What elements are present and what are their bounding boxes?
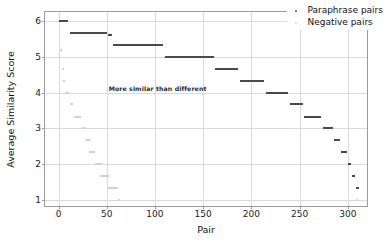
data-segment — [65, 92, 69, 94]
y-axis-title-text: Average Similarity Score — [5, 51, 16, 168]
data-segment — [95, 163, 102, 165]
x-tick-label: 0 — [56, 210, 62, 219]
data-segment — [304, 116, 320, 118]
legend-item: Paraphrase pairs — [291, 6, 383, 15]
data-segment — [107, 187, 119, 189]
gridline-horizontal — [45, 164, 367, 165]
chart-annotation: More similar than different — [109, 85, 207, 92]
data-segment — [348, 163, 351, 165]
data-segment — [165, 56, 214, 58]
gridline-vertical — [203, 12, 204, 206]
data-segment — [341, 151, 347, 153]
x-tick-label: 100 — [146, 210, 163, 219]
gridline-vertical — [300, 12, 301, 206]
data-segment — [215, 68, 238, 70]
x-tick-label: 150 — [195, 210, 212, 219]
data-segment — [113, 44, 162, 46]
data-segment — [118, 199, 120, 201]
gridline-horizontal — [45, 93, 367, 94]
y-tick-label: 4 — [35, 88, 41, 97]
data-segment — [59, 20, 68, 22]
data-segment — [70, 32, 107, 34]
data-segment — [74, 116, 81, 118]
data-segment — [63, 80, 65, 82]
data-segment — [356, 199, 359, 201]
legend-dot — [295, 10, 297, 12]
chart-legend: Paraphrase pairsNegative pairs — [287, 3, 389, 30]
x-tick-label: 50 — [101, 210, 112, 219]
y-tick-mark — [42, 93, 45, 94]
legend-label: Negative pairs — [307, 18, 372, 27]
x-tick-label: 250 — [291, 210, 308, 219]
y-tick-label: 2 — [35, 160, 41, 169]
data-segment — [89, 151, 95, 153]
legend-marker-negative-icon — [291, 22, 300, 24]
legend-marker-paraphrase-icon — [291, 10, 300, 12]
y-axis-title: Average Similarity Score — [4, 11, 16, 207]
y-tick-mark — [42, 128, 45, 129]
data-segment — [356, 187, 359, 189]
chart-figure: Average Similarity Score More similar th… — [0, 0, 392, 247]
plot-area: More similar than different — [45, 12, 367, 206]
gridline-vertical — [59, 12, 60, 206]
data-segment — [82, 127, 86, 129]
data-segment — [86, 139, 91, 141]
legend-label: Paraphrase pairs — [307, 6, 383, 15]
gridline-vertical — [348, 12, 349, 206]
data-segment — [334, 139, 340, 141]
gridline-horizontal — [45, 128, 367, 129]
y-tick-mark — [42, 164, 45, 165]
data-segment — [352, 175, 356, 177]
y-tick-label: 1 — [35, 196, 41, 205]
data-segment — [108, 34, 113, 36]
y-tick-mark — [42, 57, 45, 58]
plot-axes: More similar than different 123456050100… — [44, 11, 368, 207]
x-axis-title: Pair — [44, 224, 368, 235]
data-segment — [70, 103, 73, 105]
data-segment — [290, 103, 304, 105]
y-tick-mark — [42, 200, 45, 201]
legend-item: Negative pairs — [291, 18, 383, 27]
data-segment — [100, 175, 109, 177]
x-tick-label: 200 — [243, 210, 260, 219]
x-tick-label: 300 — [339, 210, 356, 219]
data-segment — [323, 127, 334, 129]
y-tick-mark — [42, 21, 45, 22]
data-segment — [60, 49, 62, 51]
data-segment — [240, 80, 264, 82]
legend-dot — [295, 22, 297, 24]
gridline-vertical — [155, 12, 156, 206]
gridline-vertical — [251, 12, 252, 206]
y-tick-label: 3 — [35, 124, 41, 133]
y-tick-label: 5 — [35, 52, 41, 61]
data-segment — [62, 68, 64, 70]
y-tick-label: 6 — [35, 16, 41, 25]
gridline-horizontal — [45, 200, 367, 201]
data-segment — [266, 92, 288, 94]
